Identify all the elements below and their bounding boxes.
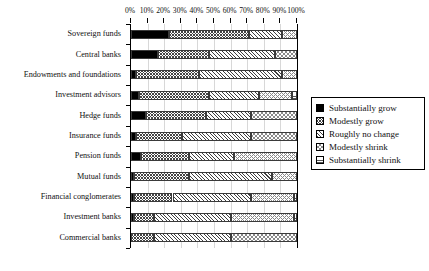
bar-segment <box>136 132 182 141</box>
x-tick-label: 40% <box>189 7 203 15</box>
bar-segment <box>131 111 146 120</box>
x-tick-mark <box>296 18 297 23</box>
category-label: Investment banks <box>0 212 121 221</box>
legend-swatch-icon <box>316 104 324 112</box>
bar-segment <box>141 152 189 161</box>
bar-row <box>131 50 297 59</box>
bar-segment <box>169 30 249 39</box>
x-tick-mark <box>130 18 131 23</box>
legend-label: Modestly shrink <box>329 142 388 152</box>
category-label: Pension funds <box>0 151 121 160</box>
y-tick-mark <box>126 126 130 127</box>
legend-label: Roughly no change <box>329 129 399 139</box>
bar-segment <box>131 30 169 39</box>
bar-segment <box>199 70 282 79</box>
stacked-bar-chart: 0%10%20%30%40%50%60%70%80%90%100% Sovere… <box>0 0 429 271</box>
bar-segment <box>209 91 259 100</box>
bar-segment <box>189 172 272 181</box>
bar-segment <box>154 233 230 242</box>
bar-segment <box>131 50 158 59</box>
bar-row <box>131 70 297 79</box>
bar-segment <box>131 152 141 161</box>
bar-segment <box>282 30 297 39</box>
bar-segment <box>251 193 294 202</box>
x-tick-label: 0% <box>125 7 135 15</box>
y-tick-mark <box>126 167 130 168</box>
bar-segment <box>146 111 206 120</box>
x-tick-label: 90% <box>272 7 286 15</box>
legend-item[interactable]: Substantially grow <box>316 101 420 114</box>
y-tick-mark <box>126 105 130 106</box>
x-tick-label: 20% <box>156 7 170 15</box>
legend-item[interactable]: Substantially shrink <box>316 153 420 166</box>
category-label: Endowments and foundations <box>0 70 121 79</box>
legend-label: Substantially grow <box>329 103 397 113</box>
category-label: Central banks <box>0 50 121 59</box>
legend-item[interactable]: Roughly no change <box>316 127 420 140</box>
bar-segment <box>158 50 209 59</box>
y-tick-mark <box>126 24 130 25</box>
bar-row <box>131 152 297 161</box>
x-tick-label: 70% <box>239 7 253 15</box>
legend-label: Substantially shrink <box>329 155 401 165</box>
x-tick-mark <box>230 18 231 23</box>
x-tick-label: 80% <box>256 7 270 15</box>
bar-segment <box>251 132 297 141</box>
bar-segment <box>259 91 292 100</box>
x-tick-mark <box>246 18 247 23</box>
y-tick-mark <box>126 187 130 188</box>
bar-row <box>131 91 297 100</box>
bar-segment <box>206 111 251 120</box>
bar-segment <box>131 91 139 100</box>
legend-label: Modestly grow <box>329 116 384 126</box>
legend-item[interactable]: Modestly grow <box>316 114 420 127</box>
bar-row <box>131 132 297 141</box>
x-tick-label: 50% <box>206 7 220 15</box>
bar-segment <box>234 152 297 161</box>
category-label: Commercial banks <box>0 233 121 242</box>
y-tick-mark <box>126 65 130 66</box>
bar-segment <box>182 132 250 141</box>
legend-swatch-icon <box>316 143 324 151</box>
bar-segment <box>251 111 297 120</box>
bar-segment <box>294 213 297 222</box>
x-tick-mark <box>147 18 148 23</box>
x-tick-mark <box>213 18 214 23</box>
legend-item[interactable]: Modestly shrink <box>316 140 420 153</box>
legend-swatch-icon <box>316 130 324 138</box>
x-tick-mark <box>180 18 181 23</box>
bar-segment <box>139 91 209 100</box>
bar-segment <box>173 193 251 202</box>
category-label: Investment advisors <box>0 90 121 99</box>
bar-segment <box>189 152 234 161</box>
bar-segment <box>209 50 275 59</box>
bar-segment <box>231 213 294 222</box>
plot-area <box>130 24 298 248</box>
bar-segment <box>134 193 172 202</box>
bar-segment <box>275 50 297 59</box>
category-label: Mutual funds <box>0 172 121 181</box>
bar-segment <box>249 30 282 39</box>
x-tick-mark <box>163 18 164 23</box>
category-label: Insurance funds <box>0 131 121 140</box>
bar-segment <box>231 233 297 242</box>
x-tick-mark <box>279 18 280 23</box>
bar-segment <box>294 193 297 202</box>
bar-segment <box>282 70 297 79</box>
bar-row <box>131 111 297 120</box>
bar-row <box>131 193 297 202</box>
y-tick-mark <box>126 146 130 147</box>
legend-swatch-icon <box>316 117 324 125</box>
bar-row <box>131 233 297 242</box>
bar-segment <box>134 213 154 222</box>
bar-segment <box>292 91 297 100</box>
category-label: Financial conglomerates <box>0 192 121 201</box>
y-axis-category-labels: Sovereign fundsCentral banksEndowments a… <box>0 24 125 248</box>
chart-legend: Substantially growModestly growRoughly n… <box>311 97 425 170</box>
bar-row <box>131 30 297 39</box>
y-tick-mark <box>126 228 130 229</box>
bar-segment <box>136 70 199 79</box>
bar-segment <box>154 213 230 222</box>
y-tick-mark <box>126 207 130 208</box>
x-tick-mark <box>196 18 197 23</box>
